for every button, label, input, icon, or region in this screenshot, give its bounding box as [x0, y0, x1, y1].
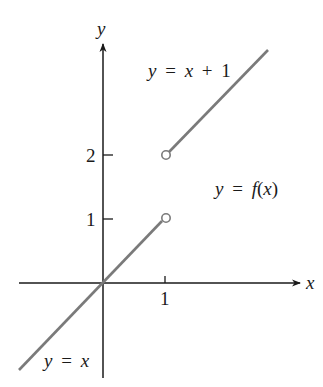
- open-endpoint-1-1: [162, 214, 170, 222]
- diagram-canvas: x y 1 1 2 y = x + 1 y = f(x) y: [0, 0, 323, 387]
- piecewise-function-diagram: x y 1 1 2 y = x + 1 y = f(x) y: [0, 0, 323, 387]
- x-axis-label: x: [305, 272, 315, 293]
- y-tick-label-2: 2: [86, 145, 96, 166]
- y-tick-label-1: 1: [86, 209, 96, 230]
- label-lower-branch: y = x: [42, 350, 90, 371]
- label-upper-branch: y = x + 1: [146, 60, 231, 81]
- x-tick-label-1: 1: [160, 288, 170, 309]
- label-function: y = f(x): [213, 178, 278, 200]
- curve-y-equals-x: [19, 221, 162, 370]
- open-endpoint-1-2: [162, 151, 170, 159]
- y-axis-label: y: [95, 18, 106, 39]
